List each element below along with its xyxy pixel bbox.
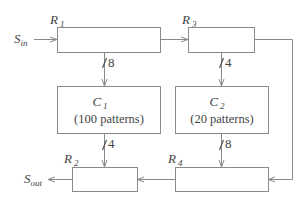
label-r2: R2 bbox=[63, 151, 79, 168]
bus-width-r3-c2: 4 bbox=[225, 55, 232, 70]
circuit-diagram: R1 R3 R2 R4 Sin Sout C1 (100 patterns) C… bbox=[0, 0, 307, 202]
label-r3: R3 bbox=[181, 12, 197, 29]
register-r2-box bbox=[73, 168, 138, 192]
label-c1-patterns: (100 patterns) bbox=[74, 112, 144, 126]
bus-width-r1-c1: 8 bbox=[108, 55, 115, 70]
label-r4: R4 bbox=[167, 151, 183, 168]
register-r3-box bbox=[189, 28, 255, 53]
bus-width-c2-r4: 8 bbox=[225, 136, 232, 151]
label-s-out: Sout bbox=[24, 171, 43, 188]
register-r4-box bbox=[176, 168, 269, 192]
label-s-in: Sin bbox=[14, 31, 28, 48]
circuit-c1-box bbox=[58, 87, 161, 134]
label-r1: R1 bbox=[49, 12, 64, 29]
register-r1-box bbox=[58, 28, 161, 53]
label-c2-patterns: (20 patterns) bbox=[190, 112, 254, 126]
bus-width-c1-r2: 4 bbox=[108, 136, 115, 151]
